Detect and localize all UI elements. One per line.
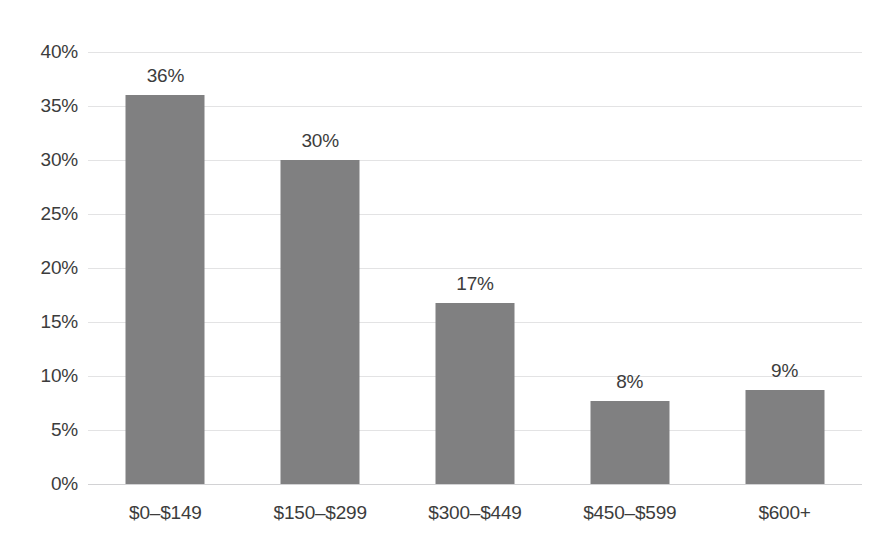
y-tick-label: 35% (6, 95, 78, 117)
y-axis: 40% 35% 30% 25% 20% 15% 10% 5% 0% (0, 52, 78, 484)
y-tick-label: 10% (6, 365, 78, 387)
bar-slot: 8% (552, 52, 707, 484)
bar-slot: 36% (88, 52, 243, 484)
bar[interactable] (126, 95, 205, 484)
y-tick-label: 20% (6, 257, 78, 279)
y-tick-label: 30% (6, 149, 78, 171)
x-axis: $0–$149 $150–$299 $300–$449 $450–$599 $6… (88, 492, 862, 532)
bar-value-label: 36% (147, 65, 184, 87)
bar-slot: 17% (398, 52, 553, 484)
bar[interactable] (435, 303, 514, 484)
x-tick-label: $0–$149 (88, 502, 243, 524)
y-tick-label: 25% (6, 203, 78, 225)
y-tick-label: 15% (6, 311, 78, 333)
bar-chart: 40% 35% 30% 25% 20% 15% 10% 5% 0% 36% 30… (0, 0, 888, 556)
y-tick-label: 0% (6, 473, 78, 495)
x-tick-label: $300–$449 (398, 502, 553, 524)
bar-slot: 30% (243, 52, 398, 484)
bar[interactable] (281, 160, 360, 484)
x-tick-label: $600+ (707, 502, 862, 524)
x-tick-label: $450–$599 (552, 502, 707, 524)
plot-area: 36% 30% 17% 8% 9% (88, 52, 862, 484)
bar-value-label: 8% (616, 371, 643, 393)
bar-value-label: 17% (456, 273, 493, 295)
axis-baseline (88, 484, 862, 485)
y-tick-label: 40% (6, 41, 78, 63)
x-tick-label: $150–$299 (243, 502, 398, 524)
bar-slot: 9% (707, 52, 862, 484)
bar[interactable] (590, 401, 669, 484)
bar-value-label: 30% (301, 130, 338, 152)
bar[interactable] (745, 390, 824, 484)
bar-value-label: 9% (771, 360, 798, 382)
y-tick-label: 5% (6, 419, 78, 441)
